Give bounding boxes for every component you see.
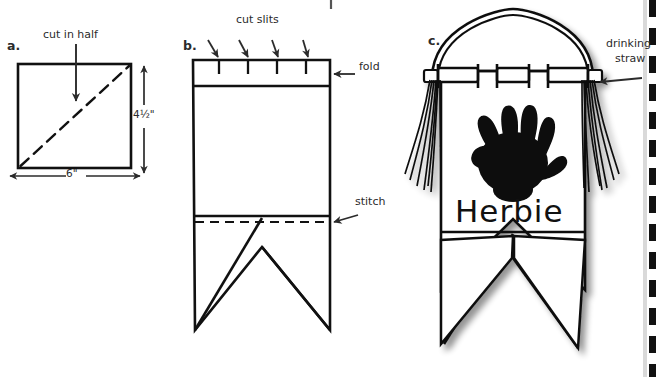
panel-c-tail-right-shape [514,236,585,348]
cut-slits-arrow [272,40,278,57]
flag-name-text: Herbie [455,193,564,229]
tassel-icon [582,80,619,192]
panel-c-tail-left-shape [441,236,513,344]
drinking-straw-label-line2: straw [615,53,645,65]
cut-in-half-label: cut in half [43,29,98,41]
stitch-pointer-arrow [334,215,358,222]
tassel-icon [405,80,441,192]
panel-a-caption: a. [7,39,20,52]
diagram-vector-layer [0,0,657,377]
panel-a-figure [10,44,144,176]
panel-b-flag-outline [193,60,330,330]
panel-c-caption: c. [428,34,440,47]
fold-label: fold [359,61,380,73]
page-edge-dashes [645,0,653,377]
cut-slits-arrow [208,40,218,57]
height-dimension-label: 4½" [133,109,155,120]
stitch-label: stitch [355,196,385,208]
cut-slits-arrow [303,40,308,57]
drinking-straw-label-line1: drinking [606,38,651,50]
diagram-canvas: (sketch c). [0,0,657,377]
drinking-straw-pointer-arrow [600,78,642,82]
panel-b-caption: b. [183,39,197,52]
panel-c-figure [405,9,619,348]
width-dimension-label: 6" [66,168,78,179]
panel-b-figure [193,40,358,330]
cut-slits-arrow [239,40,248,57]
cut-slits-label: cut slits [236,14,279,26]
